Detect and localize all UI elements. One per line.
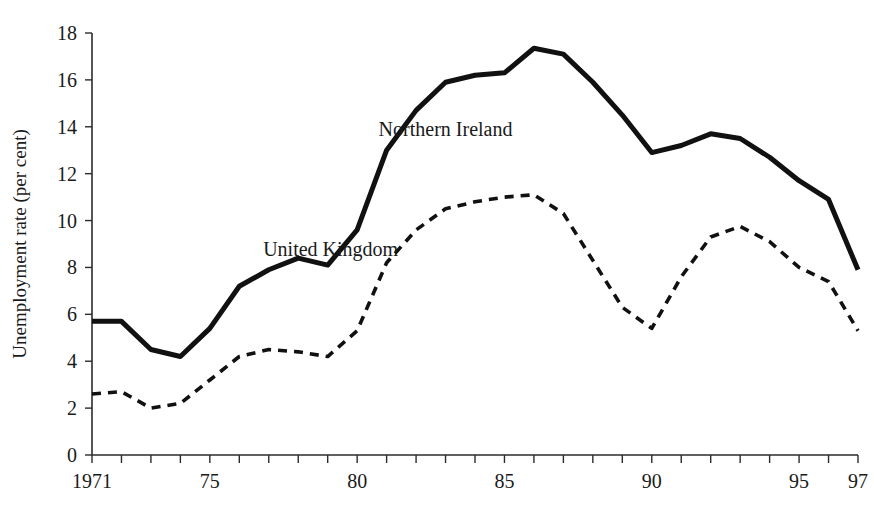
y-tick-label: 2 (67, 397, 77, 419)
y-tick-label: 8 (67, 256, 77, 278)
y-axis-title: Unemployment rate (per cent) (9, 129, 31, 358)
x-tick-label: 75 (200, 470, 220, 492)
y-tick-label: 0 (67, 444, 77, 466)
y-tick-label: 16 (57, 69, 77, 91)
series-label-united-kingdom: United Kingdom (263, 238, 398, 261)
x-tick-label: 95 (789, 470, 809, 492)
y-tick-marks (85, 33, 92, 455)
x-tick-label: 1971 (72, 470, 112, 492)
y-tick-label: 18 (57, 22, 77, 44)
x-tick-marks (92, 455, 858, 463)
series-label-northern-ireland: Northern Ireland (379, 118, 513, 140)
y-tick-labels: 024681012141618 (57, 22, 77, 466)
x-axis-group: 1971758085909597 (72, 455, 868, 492)
series-annotations: Northern Ireland United Kingdom (263, 118, 512, 261)
y-tick-label: 14 (57, 116, 77, 138)
x-tick-label: 97 (848, 470, 868, 492)
y-tick-label: 10 (57, 210, 77, 232)
plot-series-group (92, 48, 858, 408)
x-tick-label: 80 (347, 470, 367, 492)
y-tick-label: 12 (57, 163, 77, 185)
x-tick-label: 85 (494, 470, 514, 492)
x-tick-label: 90 (642, 470, 662, 492)
series-line-united-kingdom (92, 195, 858, 408)
y-axis-group: 024681012141618 (57, 22, 92, 466)
x-tick-labels: 1971758085909597 (72, 470, 868, 492)
y-tick-label: 4 (67, 350, 77, 372)
chart-container: 024681012141618 1971758085909597 Norther… (0, 0, 874, 518)
y-tick-label: 6 (67, 303, 77, 325)
line-chart: 024681012141618 1971758085909597 Norther… (0, 0, 874, 518)
